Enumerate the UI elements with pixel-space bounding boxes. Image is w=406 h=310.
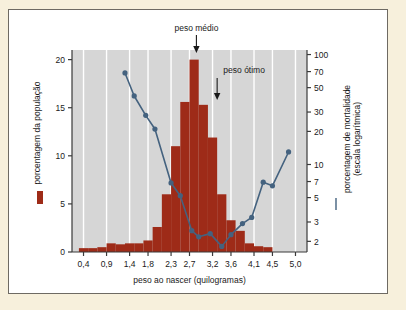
bar (162, 194, 171, 252)
y-axis-left: 05101520 (56, 50, 72, 257)
bar (190, 60, 199, 252)
y-axis-right: 23571020305070100 (307, 50, 328, 252)
mortality-point (143, 113, 148, 118)
y-tick-label-left: 5 (60, 199, 65, 209)
y-tick-label-right: 20 (314, 127, 324, 137)
y-tick-label-right: 5 (314, 193, 319, 203)
y-axis-right-title: porcentagem de mortalidade (342, 85, 352, 193)
bar (263, 247, 272, 252)
mortality-point (178, 193, 183, 198)
x-tick-label: 2,3 (165, 259, 177, 269)
population-legend-swatch (37, 191, 43, 204)
y-axis-left-title: porcentagem da população (32, 81, 42, 184)
x-axis-title: peso ao nascer (quilogramas) (133, 275, 246, 285)
mortality-point (286, 149, 291, 154)
mortality-point (240, 221, 245, 226)
chart-area: 05101520235710203050701000,40,91,41,82,3… (0, 0, 406, 310)
figure-container: 05101520235710203050701000,40,91,41,82,3… (0, 0, 406, 310)
x-tick-label: 3,2 (207, 259, 219, 269)
birth-weight-mortality-chart: 05101520235710203050701000,40,91,41,82,3… (0, 0, 406, 310)
mortality-point (132, 93, 137, 98)
mortality-point (261, 180, 266, 185)
y-axis-right-title-2: (escala logarítmica) (352, 102, 362, 176)
mortality-point (196, 234, 201, 239)
x-axis: 0,40,91,41,82,32,73,23,64,14,55,0 (72, 252, 307, 269)
x-tick-label: 4,5 (267, 259, 279, 269)
annotation-peso-otimo: peso ótimo (223, 65, 265, 75)
bar (199, 105, 208, 252)
bar (171, 146, 180, 252)
mortality-point (270, 183, 275, 188)
x-tick-label: 2,7 (184, 259, 196, 269)
bar (153, 227, 162, 252)
mortality-point (208, 231, 213, 236)
y-tick-label-left: 20 (56, 55, 66, 65)
y-tick-label-right: 10 (314, 160, 324, 170)
x-tick-label: 1,4 (124, 259, 136, 269)
y-tick-label-left: 15 (56, 103, 66, 113)
x-tick-label: 0,4 (78, 259, 90, 269)
bar (236, 231, 245, 252)
y-tick-label-right: 70 (314, 67, 324, 77)
y-tick-label-right: 50 (314, 83, 324, 93)
y-tick-label-right: 7 (314, 177, 319, 187)
mortality-point (219, 244, 224, 249)
bar (245, 243, 254, 252)
annotation-peso-medio: peso médio (174, 23, 218, 33)
mortality-point (249, 215, 254, 220)
bar (143, 240, 152, 252)
y-tick-label-right: 2 (314, 237, 319, 247)
bar (134, 243, 143, 252)
y-tick-label-right: 3 (314, 217, 319, 227)
y-tick-label-right: 100 (314, 50, 328, 60)
bar (125, 243, 134, 252)
bar (107, 243, 116, 252)
bar (254, 246, 263, 252)
y-tick-label-right: 30 (314, 107, 324, 117)
mortality-point (189, 228, 194, 233)
x-tick-label: 3,6 (225, 259, 237, 269)
bar (97, 247, 106, 252)
mortality-point (228, 232, 233, 237)
y-tick-label-left: 0 (60, 247, 65, 257)
bar (180, 102, 189, 252)
x-tick-label: 0,9 (101, 259, 113, 269)
x-tick-label: 1,8 (142, 259, 154, 269)
bar (116, 244, 125, 252)
x-tick-label: 4,1 (248, 259, 260, 269)
y-tick-label-left: 10 (56, 151, 66, 161)
mortality-point (122, 70, 127, 75)
mortality-point (152, 126, 157, 131)
mortality-point (168, 180, 173, 185)
x-tick-label: 5,0 (290, 259, 302, 269)
